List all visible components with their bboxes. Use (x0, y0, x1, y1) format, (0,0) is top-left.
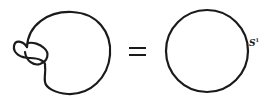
s1-label: S1 (249, 37, 259, 48)
equals-sign (129, 48, 146, 55)
equation-diagram (0, 0, 274, 102)
twisted-loop (14, 12, 110, 94)
unit-circle (166, 10, 248, 92)
